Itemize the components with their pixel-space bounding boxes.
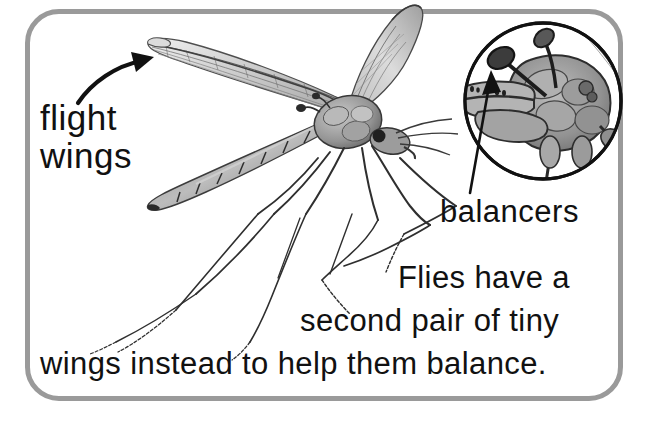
- flight-label: flight: [40, 100, 117, 135]
- balancers-label: balancers: [440, 196, 579, 227]
- wings-label: wings: [40, 138, 132, 173]
- caption-line-3: wings instead to help them balance.: [40, 348, 547, 379]
- caption-line-2: second pair of tiny: [300, 305, 559, 336]
- illustration-page: flight wings balancers Flies have a seco…: [0, 0, 652, 422]
- caption-line-1: Flies have a: [398, 262, 570, 293]
